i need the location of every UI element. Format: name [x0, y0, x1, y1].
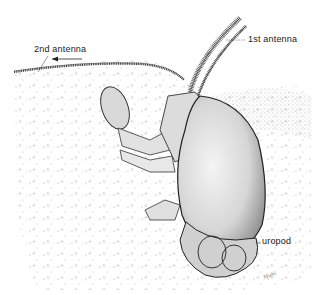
- label-second-antenna: 2nd antenna: [34, 44, 86, 54]
- label-first-antenna: 1st antenna: [248, 34, 297, 44]
- label-uropod: uropod: [262, 236, 291, 246]
- first-antenna-a: [190, 18, 240, 92]
- first-antenna-a-line: [190, 18, 240, 92]
- arrow-head-icon: [52, 57, 58, 62]
- mole-crab-illustration: 2nd antenna 1st antenna uropod Mahi: [0, 0, 320, 295]
